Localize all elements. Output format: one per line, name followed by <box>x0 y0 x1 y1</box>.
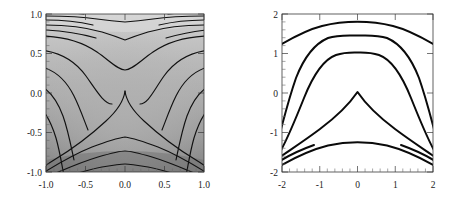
right-ytick-label-4: -1 <box>270 128 278 138</box>
left-ytick-label-5: -1.0 <box>27 168 42 178</box>
left-plot-svg: 1.0 0.5 0.0 -0.5 -1.0 -1.0 -0.5 0.0 0.5 … <box>0 0 226 201</box>
right-ytick-label-2: 1 <box>273 49 278 59</box>
right-xtick-label-4: 1 <box>393 180 398 190</box>
right-xtick-label-3: 0 <box>355 180 360 190</box>
right-xtick-label-2: -1 <box>316 180 324 190</box>
right-ytick-label-1: 2 <box>273 10 278 20</box>
left-xtick-label-4: 0.5 <box>159 180 171 190</box>
right-xtick-label-5: 2 <box>431 180 436 190</box>
right-xtick-label-1: -2 <box>278 180 286 190</box>
right-ytick-label-5: -2 <box>270 168 278 178</box>
left-ytick-label-2: 0.5 <box>30 49 42 59</box>
left-xtick-label-3: 0.0 <box>119 180 131 190</box>
left-xtick-label-2: -0.5 <box>78 180 93 190</box>
left-ytick-label-4: -0.5 <box>27 128 42 138</box>
left-contour-panel: 1.0 0.5 0.0 -0.5 -1.0 -1.0 -0.5 0.0 0.5 … <box>0 0 226 201</box>
left-ytick-label-3: 0.0 <box>30 89 42 99</box>
right-ytick-label-3: 0 <box>273 89 278 99</box>
left-plot-area <box>36 12 214 184</box>
left-xtick-label-1: -1.0 <box>38 180 53 190</box>
right-plot-svg: 2 1 0 -1 -2 -2 -1 0 1 2 <box>226 0 452 201</box>
two-panel-contour-figure: 1.0 0.5 0.0 -0.5 -1.0 -1.0 -0.5 0.0 0.5 … <box>0 0 452 201</box>
right-contour-panel: 2 1 0 -1 -2 -2 -1 0 1 2 <box>226 0 452 201</box>
left-xtick-label-5: 1.0 <box>198 180 210 190</box>
left-ytick-label-1: 1.0 <box>30 10 42 20</box>
